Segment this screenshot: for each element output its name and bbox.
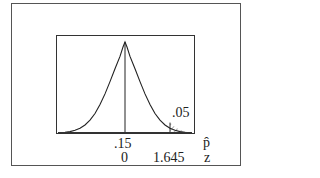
tail-area-label: .05 (172, 106, 190, 120)
z-critical-label: 1.645 (153, 151, 185, 165)
phat-axis-label: p̂ (203, 136, 210, 150)
phat-center-label: .15 (114, 137, 132, 151)
z-center-label: 0 (121, 151, 128, 165)
z-axis-label: z (204, 151, 210, 165)
